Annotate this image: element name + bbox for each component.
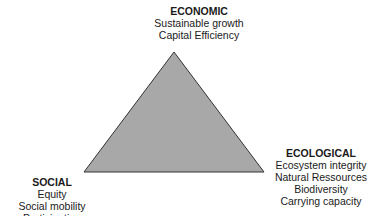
economic-title: ECONOMIC [124,5,274,17]
economic-item: Capital Efficiency [124,29,274,41]
ecological-label: ECOLOGICAL Ecosystem integrity Natural R… [266,147,376,207]
ecological-item: Natural Ressources [266,171,376,183]
ecological-item: Biodiversity [266,183,376,195]
ecological-item: Ecosystem integrity [266,159,376,171]
economic-item: Sustainable growth [124,17,274,29]
ecological-item: Carrying capacity [266,195,376,207]
social-item: Participation [0,212,104,216]
sustainability-triangle [84,52,264,172]
social-item: Social mobility [0,200,104,212]
social-label: SOCIAL Equity Social mobility Participat… [0,176,104,216]
economic-label: ECONOMIC Sustainable growth Capital Effi… [124,5,274,41]
social-title: SOCIAL [0,176,104,188]
social-item: Equity [0,188,104,200]
ecological-title: ECOLOGICAL [266,147,376,159]
